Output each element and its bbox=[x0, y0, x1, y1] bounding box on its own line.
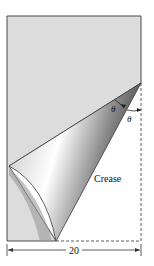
crease-label: Crease bbox=[94, 173, 122, 184]
theta-left-label: θ bbox=[111, 104, 116, 114]
folded-paper-diagram: θ θ Crease 20 bbox=[0, 0, 154, 266]
theta-right-label: θ bbox=[127, 114, 132, 124]
arrowhead-right-icon bbox=[135, 248, 140, 252]
width-label: 20 bbox=[69, 245, 79, 256]
arrowhead-left-icon bbox=[8, 248, 13, 252]
